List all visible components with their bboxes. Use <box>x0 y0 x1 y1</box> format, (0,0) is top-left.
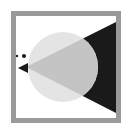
small-dot <box>16 55 18 57</box>
large-dot <box>22 54 26 58</box>
geometric-icon-canvas <box>0 0 129 130</box>
